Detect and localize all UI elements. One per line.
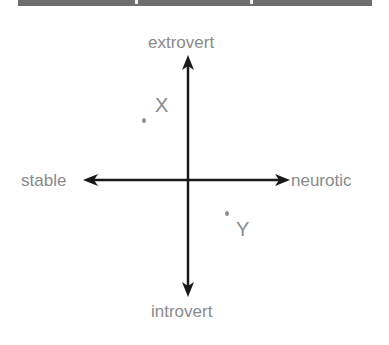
point-y-marker: [225, 211, 229, 216]
axis-label-bottom: introvert: [151, 303, 212, 320]
point-x-marker: [142, 118, 146, 123]
axis-label-top: extrovert: [148, 34, 214, 51]
point-y-label: Y: [236, 219, 249, 239]
axis-label-left: stable: [21, 172, 66, 189]
axis-label-right: neurotic: [291, 172, 351, 189]
point-x-label: X: [155, 95, 168, 115]
